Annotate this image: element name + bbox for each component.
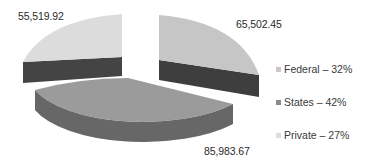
legend-label-private: Private – 27% (284, 129, 349, 141)
legend-swatch-federal (276, 67, 281, 72)
legend-item-federal: Federal – 32% (276, 63, 352, 75)
legend-item-states: States – 42% (276, 96, 352, 108)
slice-private (23, 14, 122, 83)
legend-item-private: Private – 27% (276, 129, 352, 141)
data-label-federal: 65,502.45 (236, 18, 282, 30)
slice-states (35, 78, 233, 142)
legend-swatch-states (276, 100, 281, 105)
chart-legend: Federal – 32% States – 42% Private – 27% (276, 63, 352, 162)
data-label-states: 85,983.67 (204, 145, 250, 157)
legend-label-states: States – 42% (284, 96, 346, 108)
legend-swatch-private (276, 133, 281, 138)
legend-label-federal: Federal – 32% (284, 63, 352, 75)
data-label-private: 55,519.92 (18, 10, 64, 22)
